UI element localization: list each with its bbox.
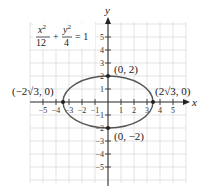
y-tick-label: 1 — [100, 85, 104, 94]
point-label-left: (−2√3, 0) — [12, 85, 54, 98]
y-tick-label: −3 — [95, 137, 104, 146]
point-label-right: (2√3, 0) — [155, 85, 191, 98]
y-tick-label: −1 — [95, 111, 104, 120]
y-tick-label: −4 — [95, 150, 104, 159]
x-tick-label: 1 — [119, 106, 123, 115]
eq-y-den: 4 — [64, 37, 69, 48]
y-axis-label: y — [104, 4, 110, 16]
point-right — [151, 100, 155, 104]
point-left — [61, 100, 65, 104]
point-bottom — [106, 126, 110, 130]
y-tick-label: 4 — [100, 46, 104, 55]
point-top — [106, 74, 110, 78]
x-tick-label: −4 — [52, 106, 61, 115]
x-tick-label: −2 — [78, 106, 87, 115]
point-label-bottom: (0, −2) — [114, 130, 144, 143]
ellipse-graph: −5−4−3−2−11234554321−1−2−3−4−5 x y (0, 2… — [0, 0, 207, 191]
x-tick-label: 5 — [171, 106, 175, 115]
x-tick-label: 4 — [158, 106, 162, 115]
y-tick-label: 3 — [100, 59, 104, 68]
x-axis-arrow-icon — [183, 99, 190, 105]
eq-x-den: 12 — [36, 37, 46, 48]
x-tick-label: 2 — [132, 106, 136, 115]
y-tick-label: 5 — [100, 33, 104, 42]
y-axis-arrow-icon — [105, 17, 111, 24]
point-label-top: (0, 2) — [114, 63, 138, 76]
eq-rhs: = 1 — [75, 31, 88, 42]
x-axis-label: x — [191, 96, 197, 108]
x-tick-label: −5 — [39, 106, 48, 115]
y-tick-label: −5 — [95, 163, 104, 172]
eq-plus: + — [53, 31, 59, 42]
